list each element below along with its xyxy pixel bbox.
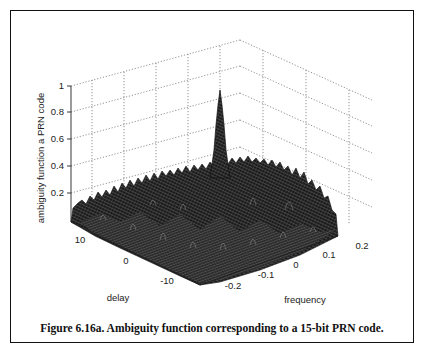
figure-caption: Figure 6.16a. Ambiguity function corresp… [10,322,414,334]
z-tick-labels: 1 0.8 0.6 0.4 0.2 [51,80,64,198]
svg-text:-0.1: -0.1 [258,269,274,280]
frequency-axis-label: frequency [284,294,326,305]
svg-text:0.1: 0.1 [322,249,335,260]
delay-axis-label: delay [107,292,130,303]
svg-text:0.2: 0.2 [355,240,368,251]
svg-text:10: 10 [75,234,86,245]
z-axis-label: ambiguity function a PRN code [35,93,46,223]
z-axis [67,86,71,222]
main-peak [210,90,230,178]
svg-text:1: 1 [59,80,64,91]
svg-text:0: 0 [293,259,298,270]
svg-text:0.4: 0.4 [51,160,64,171]
svg-text:0.2: 0.2 [51,187,64,198]
svg-text:-10: -10 [160,275,174,286]
svg-text:0: 0 [123,255,128,266]
surface-plot: 1 0.8 0.6 0.4 0.2 ambiguity function a P… [0,0,426,352]
svg-text:0.6: 0.6 [51,133,64,144]
svg-text:-0.2: -0.2 [225,280,241,291]
svg-text:0.8: 0.8 [51,106,64,117]
